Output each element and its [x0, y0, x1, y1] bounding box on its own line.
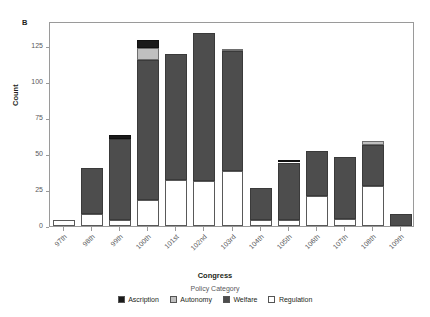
segment-welfare	[334, 157, 356, 219]
legend-swatch-icon	[170, 296, 177, 303]
legend-item-autonomy[interactable]: Autonomy	[170, 296, 212, 303]
segment-regulation	[109, 220, 131, 226]
x-tick-label: 108th	[359, 233, 376, 250]
x-tick-mark	[344, 227, 345, 231]
legend-item-welfare[interactable]: Welfare	[223, 296, 258, 303]
y-tick-label: 0	[39, 222, 43, 229]
bar-109th[interactable]	[390, 214, 412, 226]
x-tick-mark	[203, 227, 204, 231]
segment-regulation	[278, 220, 300, 226]
y-tick-label: 25	[35, 186, 43, 193]
legend-label: Regulation	[279, 296, 312, 303]
segment-welfare	[222, 51, 244, 171]
segment-welfare	[137, 60, 159, 200]
legend-item-regulation[interactable]: Regulation	[268, 296, 312, 303]
segment-welfare	[390, 214, 412, 226]
x-tick-mark	[175, 227, 176, 231]
bar-108th[interactable]	[362, 141, 384, 226]
segment-welfare	[81, 168, 103, 214]
x-tick-mark	[316, 227, 317, 231]
segment-autonomy	[137, 48, 159, 60]
x-tick-mark	[400, 227, 401, 231]
legend-label: Autonomy	[180, 296, 212, 303]
y-tick-label: 75	[35, 114, 43, 121]
x-tick-label: 97th	[53, 233, 68, 248]
segment-regulation	[53, 220, 75, 226]
y-tick-label: 50	[35, 150, 43, 157]
segment-regulation	[193, 181, 215, 226]
x-tick-label: 109th	[388, 233, 405, 250]
bar-99th[interactable]	[109, 135, 131, 226]
segment-regulation	[137, 200, 159, 226]
segment-welfare	[193, 33, 215, 182]
x-tick-mark	[232, 227, 233, 231]
figure-panel-b: B Count 0255075100125 97th98th99th100th1…	[0, 0, 430, 317]
legend-swatch-icon	[223, 296, 230, 303]
legend-label: Ascription	[128, 296, 159, 303]
x-axis: 97th98th99th100th101st102nd103rd104th105…	[49, 227, 414, 267]
bar-105th[interactable]	[278, 161, 300, 226]
x-tick-label: 106th	[303, 233, 320, 250]
x-tick-mark	[119, 227, 120, 231]
legend-swatch-icon	[118, 296, 125, 303]
bar-104th[interactable]	[250, 188, 272, 226]
x-tick-mark	[91, 227, 92, 231]
legend-swatch-icon	[268, 296, 275, 303]
x-tick-mark	[288, 227, 289, 231]
bar-100th[interactable]	[137, 40, 159, 226]
bar-103rd[interactable]	[222, 50, 244, 226]
segment-regulation	[81, 214, 103, 226]
x-tick-label: 107th	[331, 233, 348, 250]
legend: AscriptionAutonomyWelfareRegulation	[0, 296, 430, 303]
segment-regulation	[362, 186, 384, 226]
y-tick-label: 125	[31, 42, 43, 49]
segment-regulation	[334, 219, 356, 226]
bar-106th[interactable]	[306, 151, 328, 226]
x-axis-title: Congress	[0, 271, 430, 280]
x-tick-mark	[63, 227, 64, 231]
bar-101st[interactable]	[165, 54, 187, 226]
plot-area	[49, 22, 414, 227]
segment-welfare	[165, 54, 187, 180]
segment-regulation	[165, 180, 187, 226]
x-tick-mark	[147, 227, 148, 231]
bar-97th[interactable]	[53, 220, 75, 226]
x-tick-label: 103rd	[219, 233, 237, 251]
bars-layer	[50, 23, 413, 226]
segment-welfare	[250, 188, 272, 220]
segment-welfare	[109, 139, 131, 220]
segment-autonomy	[222, 49, 244, 51]
x-tick-label: 99th	[110, 233, 125, 248]
segment-ascription	[278, 160, 300, 162]
x-tick-label: 98th	[81, 233, 96, 248]
bar-98th[interactable]	[81, 168, 103, 226]
x-tick-mark	[260, 227, 261, 231]
segment-regulation	[306, 196, 328, 226]
bar-102nd[interactable]	[193, 33, 215, 226]
legend-title: Policy Category	[0, 285, 430, 292]
segment-regulation	[250, 220, 272, 226]
x-tick-mark	[372, 227, 373, 231]
segment-welfare	[306, 151, 328, 196]
y-axis: 0255075100125	[0, 22, 49, 227]
y-tick-label: 100	[31, 78, 43, 85]
segment-welfare	[362, 145, 384, 185]
bar-107th[interactable]	[334, 157, 356, 226]
x-tick-label: 100th	[135, 233, 152, 250]
segment-ascription	[109, 135, 131, 139]
x-tick-label: 102nd	[190, 233, 209, 252]
legend-item-ascription[interactable]: Ascription	[118, 296, 159, 303]
segment-welfare	[278, 163, 300, 221]
x-tick-label: 105th	[275, 233, 292, 250]
segment-autonomy	[362, 141, 384, 145]
x-tick-label: 101st	[163, 233, 180, 250]
x-tick-label: 104th	[247, 233, 264, 250]
legend-label: Welfare	[233, 296, 257, 303]
segment-ascription	[137, 40, 159, 49]
segment-regulation	[222, 171, 244, 226]
